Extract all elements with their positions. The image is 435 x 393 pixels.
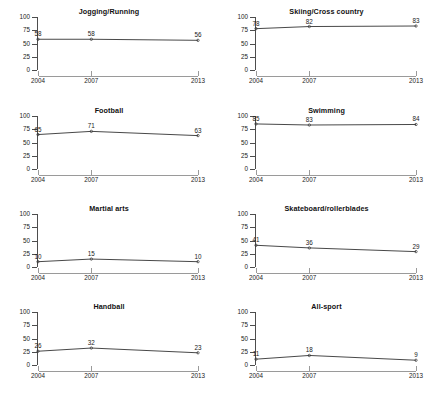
y-axis-tick-label: 0: [26, 264, 30, 270]
x-axis-tick: [256, 268, 257, 273]
data-point-label: 26: [34, 343, 41, 349]
data-point-label: 56: [194, 32, 201, 38]
y-axis-tick: [250, 17, 255, 18]
y-axis-tick: [32, 325, 37, 326]
x-axis-tick: [38, 71, 39, 76]
x-axis-tick-label: 2004: [249, 177, 263, 183]
series-line: [38, 214, 198, 267]
x-axis-tick: [309, 268, 310, 273]
x-axis-tick: [91, 71, 92, 76]
y-axis-tick-label: 100: [237, 309, 248, 315]
x-axis-tick-label: 2013: [409, 373, 423, 379]
y-axis-tick-label: 25: [23, 251, 30, 257]
y-axis-tick-label: 75: [241, 27, 248, 33]
x-axis-tick-label: 2007: [84, 177, 98, 183]
y-axis-tick-label: 100: [19, 14, 30, 20]
y-axis-tick-label: 75: [241, 322, 248, 328]
x-axis-tick-label: 2007: [302, 373, 316, 379]
data-point-label: 15: [88, 251, 95, 257]
y-axis-tick: [32, 267, 37, 268]
y-axis-tick: [250, 214, 255, 215]
plot-area: 585856: [38, 17, 198, 70]
x-axis-tick-label: 2004: [249, 275, 263, 281]
x-axis-tick-label: 2004: [31, 275, 45, 281]
x-axis-tick-label: 2004: [249, 78, 263, 84]
y-axis-tick: [250, 365, 255, 366]
plot-area: 263223: [38, 312, 198, 365]
x-axis-line: [257, 371, 416, 372]
y-axis-tick-label: 50: [241, 139, 248, 145]
plot-area: 858384: [256, 116, 416, 169]
y-axis-tick: [250, 143, 255, 144]
series-line: [256, 214, 416, 267]
x-axis-tick: [198, 366, 199, 371]
data-point-label: 10: [34, 253, 41, 259]
x-axis-line: [257, 175, 416, 176]
data-point-label: 78: [252, 20, 259, 26]
y-axis-tick: [32, 169, 37, 170]
x-axis-tick-label: 2007: [84, 275, 98, 281]
x-axis-tick: [309, 170, 310, 175]
x-axis-tick-label: 2013: [191, 373, 205, 379]
y-axis-tick-label: 0: [26, 67, 30, 73]
data-point-label: 85: [252, 116, 259, 122]
y-axis-tick-label: 50: [241, 237, 248, 243]
x-axis-tick-label: 2013: [409, 275, 423, 281]
x-axis-line: [39, 76, 198, 77]
y-axis-tick: [250, 169, 255, 170]
x-axis-tick-label: 2007: [302, 78, 316, 84]
plot-area: 101510: [38, 214, 198, 267]
x-axis-tick-label: 2013: [191, 78, 205, 84]
y-axis-tick: [250, 227, 255, 228]
series-line: [38, 312, 198, 365]
y-axis-tick: [250, 156, 255, 157]
y-axis-tick: [32, 365, 37, 366]
x-axis-tick: [91, 366, 92, 371]
x-axis-line: [257, 76, 416, 77]
y-axis-tick-label: 75: [23, 322, 30, 328]
panel-title: Football: [0, 106, 218, 115]
y-axis-tick-label: 100: [237, 14, 248, 20]
data-point-label: 58: [88, 31, 95, 37]
x-axis-tick: [91, 268, 92, 273]
plot-area: 657163: [38, 116, 198, 169]
panel-title: Swimming: [218, 106, 435, 115]
y-axis-tick: [250, 44, 255, 45]
data-point-label: 10: [194, 253, 201, 259]
x-axis-tick-label: 2007: [302, 177, 316, 183]
y-axis-tick: [250, 70, 255, 71]
y-axis-tick-label: 25: [241, 349, 248, 355]
y-axis-tick-label: 0: [244, 362, 248, 368]
y-axis-tick: [32, 312, 37, 313]
y-axis-tick: [32, 116, 37, 117]
y-axis-tick: [32, 156, 37, 157]
x-axis-tick: [256, 170, 257, 175]
y-axis-tick-label: 50: [23, 335, 30, 341]
data-point-label: 36: [306, 240, 313, 246]
x-axis-tick-label: 2007: [84, 78, 98, 84]
y-axis-tick: [250, 339, 255, 340]
y-axis-tick-label: 100: [19, 211, 30, 217]
x-axis-tick-label: 2007: [84, 373, 98, 379]
y-axis-tick: [32, 241, 37, 242]
panel-title: Jogging/Running: [0, 7, 218, 16]
x-axis-tick: [91, 170, 92, 175]
x-axis-line: [39, 371, 198, 372]
y-axis-tick-label: 25: [241, 153, 248, 159]
panel-title: Skiing/Cross country: [218, 7, 435, 16]
chart-panel: Jogging/Running0255075100200420072013585…: [0, 0, 218, 99]
y-axis-tick: [250, 30, 255, 31]
y-axis-tick: [32, 227, 37, 228]
x-axis-tick-label: 2013: [409, 78, 423, 84]
series-line: [256, 17, 416, 70]
x-axis-tick-label: 2013: [191, 275, 205, 281]
y-axis-tick-label: 25: [23, 54, 30, 60]
y-axis-tick: [250, 57, 255, 58]
y-axis-tick-label: 25: [23, 153, 30, 159]
x-axis-tick: [416, 268, 417, 273]
y-axis-tick-label: 50: [23, 237, 30, 243]
y-axis-tick-label: 0: [244, 264, 248, 270]
y-axis-tick: [32, 70, 37, 71]
y-axis-tick-label: 75: [241, 224, 248, 230]
x-axis-tick-label: 2013: [191, 177, 205, 183]
